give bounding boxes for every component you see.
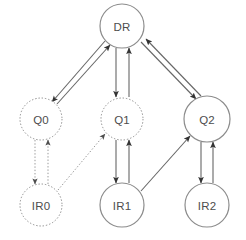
edge-dr-to-q2 bbox=[141, 42, 196, 99]
node-dr[interactable]: DR bbox=[100, 4, 144, 48]
node-label-q1: Q1 bbox=[114, 114, 130, 126]
edge-ir0-to-q1 bbox=[58, 134, 105, 190]
edge-q0-to-dr bbox=[57, 45, 110, 104]
node-label-q0: Q0 bbox=[33, 114, 49, 126]
node-q0[interactable]: Q0 bbox=[20, 98, 62, 140]
node-label-ir0: IR0 bbox=[32, 200, 51, 212]
node-label-dr: DR bbox=[113, 21, 130, 33]
edge-ir1-to-q2 bbox=[141, 136, 190, 191]
node-q2[interactable]: Q2 bbox=[184, 96, 230, 142]
node-ir1[interactable]: IR1 bbox=[100, 183, 144, 227]
node-ir2[interactable]: IR2 bbox=[185, 183, 229, 227]
node-label-ir2: IR2 bbox=[198, 200, 217, 212]
graph-svg: DRQ0Q1Q2IR0IR1IR2 bbox=[0, 0, 246, 240]
edge-q2-to-dr bbox=[146, 39, 201, 96]
node-ir0[interactable]: IR0 bbox=[20, 184, 62, 226]
diagram-canvas: DRQ0Q1Q2IR0IR1IR2 bbox=[0, 0, 246, 240]
node-q1[interactable]: Q1 bbox=[101, 98, 143, 140]
edge-dr-to-q0 bbox=[52, 41, 105, 102]
node-label-q2: Q2 bbox=[199, 114, 215, 126]
nodes-layer: DRQ0Q1Q2IR0IR1IR2 bbox=[20, 4, 230, 227]
node-label-ir1: IR1 bbox=[113, 200, 132, 212]
